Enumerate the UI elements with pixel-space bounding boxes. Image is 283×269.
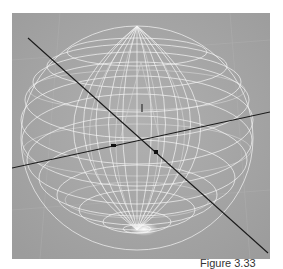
figure-caption: Figure 3.33 [200, 257, 256, 269]
3d-viewport[interactable] [12, 13, 270, 259]
scene [12, 13, 270, 259]
axis-handle-right[interactable] [154, 150, 158, 154]
bottom-pole-highlight [130, 222, 158, 236]
axis-handle-left[interactable] [111, 144, 116, 147]
